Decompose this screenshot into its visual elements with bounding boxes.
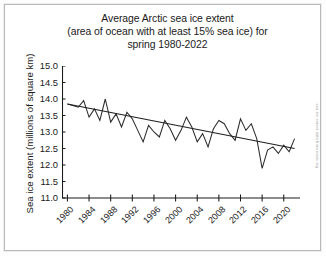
y-tick-label: 15.0 [40, 61, 58, 70]
chart-title: Average Arctic sea ice extent (area of o… [40, 12, 295, 52]
data-series-line [67, 99, 294, 168]
axis-lines [63, 66, 301, 198]
chart-page: Average Arctic sea ice extent (area of o… [0, 0, 326, 256]
chart-title-line-2: (area of ocean with at least 15% sea ice… [40, 25, 295, 38]
y-tick-label: 11.0 [40, 193, 58, 202]
y-tick-label: 13.0 [40, 127, 58, 136]
y-tick-label: 14.5 [40, 78, 58, 87]
chart-canvas [62, 66, 300, 202]
source-credit-text: sea ice extent data from nsidc.org [314, 104, 319, 169]
y-tick-label: 12.0 [40, 160, 58, 169]
chart-title-line-3: spring 1980-2022 [40, 38, 295, 51]
y-axis-title: Sea ice extent (millions of square km) [24, 46, 35, 222]
y-tick-label: 14.0 [40, 94, 58, 103]
y-tick-label: 13.5 [40, 111, 58, 120]
plot-area: 11.011.512.012.513.013.514.014.515.0 198… [62, 66, 300, 202]
y-tick-label: 11.5 [40, 177, 58, 186]
chart-title-line-1: Average Arctic sea ice extent [40, 12, 295, 25]
y-tick-label: 12.5 [40, 144, 58, 153]
source-credit-strip: sea ice extent data from nsidc.org [313, 92, 320, 180]
trend-line [67, 104, 294, 149]
